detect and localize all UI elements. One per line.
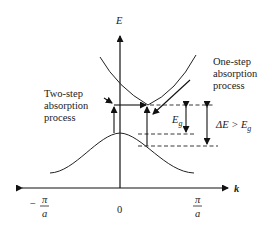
tick-pos-pi: π bbox=[195, 194, 201, 205]
two-step-label-1: Two-step bbox=[44, 88, 83, 99]
valence-band-curve bbox=[50, 133, 194, 173]
tick-zero: 0 bbox=[117, 204, 122, 215]
two-step-label-3: process bbox=[44, 112, 76, 123]
delta-e-label: ΔE > Eg bbox=[215, 119, 251, 133]
tick-neg-sign: − bbox=[30, 198, 36, 209]
tick-pos-a: a bbox=[195, 208, 200, 219]
tick-neg-pi: π bbox=[42, 194, 48, 205]
tick-neg-a: a bbox=[42, 208, 47, 219]
one-step-label-3: process bbox=[213, 80, 245, 91]
conduction-band-curve bbox=[100, 55, 196, 105]
k-axis-label: k bbox=[234, 183, 240, 194]
two-step-pointer-arrow bbox=[104, 98, 112, 103]
e-axis-label: E bbox=[115, 15, 123, 26]
band-diagram: E k Two-step absorption process One-step… bbox=[0, 0, 272, 234]
two-step-label-2: absorption bbox=[44, 100, 89, 111]
band-gap-label: Eg bbox=[171, 114, 182, 128]
one-step-pointer-arrow bbox=[153, 80, 190, 114]
one-step-label-1: One-step bbox=[213, 56, 251, 67]
one-step-label-2: absorption bbox=[213, 68, 258, 79]
